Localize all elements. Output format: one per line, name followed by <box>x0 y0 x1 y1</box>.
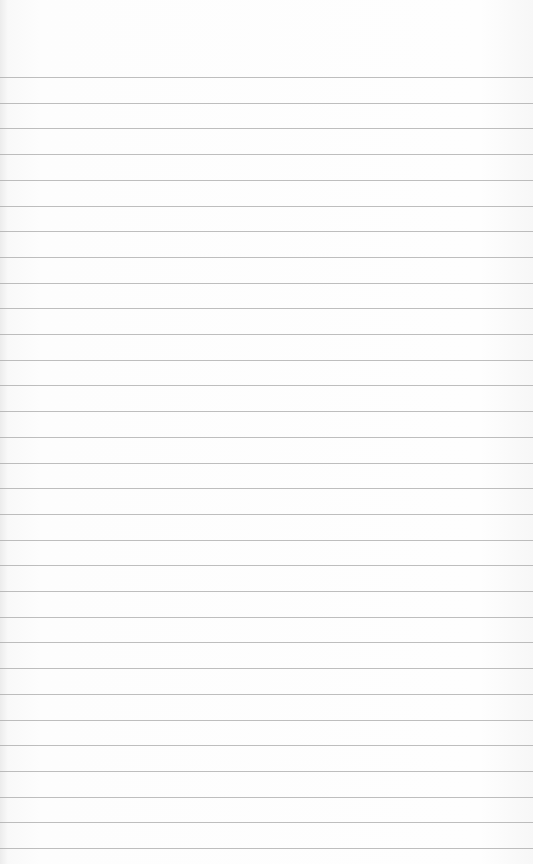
ruled-line <box>0 128 533 129</box>
ruled-line <box>0 617 533 618</box>
ruled-line <box>0 463 533 464</box>
ruled-line <box>0 154 533 155</box>
ruled-line <box>0 206 533 207</box>
ruled-line <box>0 591 533 592</box>
ruled-line <box>0 642 533 643</box>
ruled-line <box>0 488 533 489</box>
ruled-line <box>0 514 533 515</box>
ruled-line <box>0 308 533 309</box>
ruled-line <box>0 360 533 361</box>
ruled-line <box>0 565 533 566</box>
ruled-line <box>0 745 533 746</box>
ruled-line <box>0 437 533 438</box>
ruled-line <box>0 668 533 669</box>
ruled-line <box>0 694 533 695</box>
ruled-line <box>0 385 533 386</box>
lined-paper-sheet <box>0 0 533 864</box>
ruled-line <box>0 771 533 772</box>
ruled-line <box>0 77 533 78</box>
ruled-line <box>0 848 533 849</box>
ruled-line <box>0 334 533 335</box>
ruled-line <box>0 231 533 232</box>
ruled-line <box>0 720 533 721</box>
ruled-line <box>0 283 533 284</box>
ruled-line <box>0 822 533 823</box>
ruled-line <box>0 180 533 181</box>
ruled-line <box>0 257 533 258</box>
ruled-line <box>0 103 533 104</box>
ruled-line <box>0 411 533 412</box>
ruled-line <box>0 540 533 541</box>
ruled-line <box>0 797 533 798</box>
